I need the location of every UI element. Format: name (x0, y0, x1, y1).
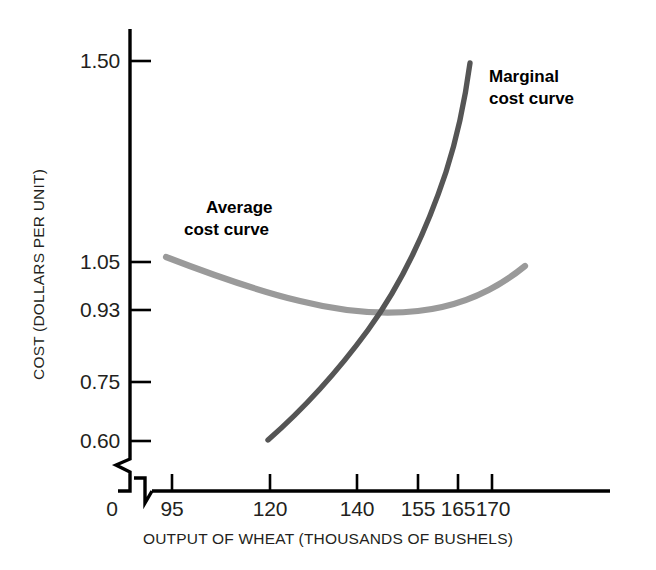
marginal-cost-curve (268, 63, 470, 440)
x-tick-label-0: 0 (94, 497, 130, 521)
average-cost-curve (166, 257, 525, 313)
marginal-cost-curve-label-line2: cost curve (489, 88, 574, 110)
x-tick-label-120: 120 (240, 497, 300, 521)
y-tick-label-0-60: 0.60 (48, 429, 120, 453)
cost-curves-chart: 1.50 1.05 0.93 0.75 0.60 0 95 120 140 15… (0, 0, 656, 570)
y-tick-label-1-50: 1.50 (48, 49, 120, 73)
x-tick-label-95: 95 (152, 497, 192, 521)
y-axis-break-zigzag (116, 452, 130, 491)
y-axis-title: COST (DOLLARS PER UNIT) (30, 169, 48, 380)
average-cost-curve-label-line2: cost curve (184, 219, 272, 241)
y-axis-ticks (130, 61, 151, 441)
marginal-cost-curve-label: Marginal cost curve (489, 66, 574, 110)
average-cost-curve-label: Average cost curve (184, 197, 272, 241)
y-tick-label-1-05: 1.05 (48, 250, 120, 274)
y-tick-label-0-93: 0.93 (48, 298, 120, 322)
average-cost-curve-label-line1: Average (206, 197, 272, 219)
marginal-cost-curve-label-line1: Marginal (489, 66, 574, 88)
x-tick-label-140: 140 (327, 497, 387, 521)
x-axis-title: OUTPUT OF WHEAT (THOUSANDS OF BUSHELS) (0, 530, 656, 548)
x-axis-break-zigzag (134, 478, 152, 503)
y-tick-label-0-75: 0.75 (48, 370, 120, 394)
x-axis-ticks (172, 474, 492, 491)
x-tick-label-170: 170 (463, 497, 523, 521)
